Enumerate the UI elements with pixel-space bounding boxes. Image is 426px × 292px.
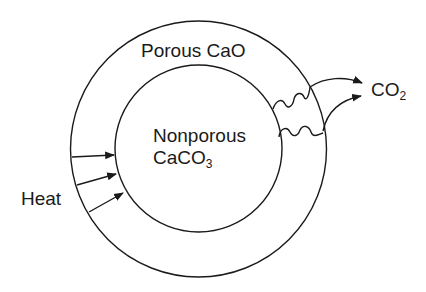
heat-arrow-2 bbox=[77, 174, 116, 185]
nonporous-label: Nonporous bbox=[153, 125, 246, 146]
caco3-label: CaCO3 bbox=[153, 147, 213, 171]
heat-label: Heat bbox=[21, 188, 62, 209]
caco3-subscript: 3 bbox=[206, 157, 213, 171]
diagram-canvas: Porous CaO Nonporous CaCO3 Heat CO2 bbox=[0, 0, 426, 292]
co2-main: CO bbox=[371, 79, 400, 100]
caco3-main: CaCO bbox=[153, 147, 206, 168]
co2-arrow-1 bbox=[310, 78, 362, 87]
diffusion-path-2 bbox=[279, 126, 323, 137]
diffusion-path-1 bbox=[273, 87, 310, 109]
porous-cao-label: Porous CaO bbox=[141, 40, 246, 61]
co2-arrow-2 bbox=[323, 96, 361, 131]
heat-arrow-1 bbox=[72, 155, 114, 157]
co2-label: CO2 bbox=[371, 79, 407, 103]
co2-arrows bbox=[310, 78, 362, 131]
co2-subscript: 2 bbox=[400, 89, 407, 103]
heat-arrows bbox=[72, 155, 123, 212]
diagram-svg: Porous CaO Nonporous CaCO3 Heat CO2 bbox=[0, 0, 426, 292]
heat-arrow-3 bbox=[89, 193, 123, 212]
